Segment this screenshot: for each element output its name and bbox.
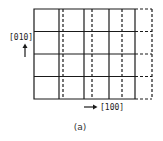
lattice-diagram: [010] [100] (a) — [0, 0, 163, 141]
arrow-up-icon — [23, 44, 28, 58]
arrow-right-icon — [84, 105, 98, 110]
grid — [34, 9, 152, 99]
figure-caption: (a) — [74, 122, 87, 132]
y-axis-label: [010] — [9, 33, 33, 42]
x-axis-label: [100] — [100, 103, 124, 112]
